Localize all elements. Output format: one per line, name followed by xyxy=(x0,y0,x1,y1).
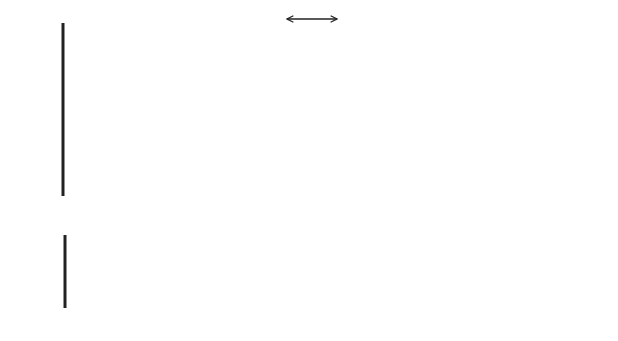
timeframe-diagram xyxy=(0,0,618,341)
